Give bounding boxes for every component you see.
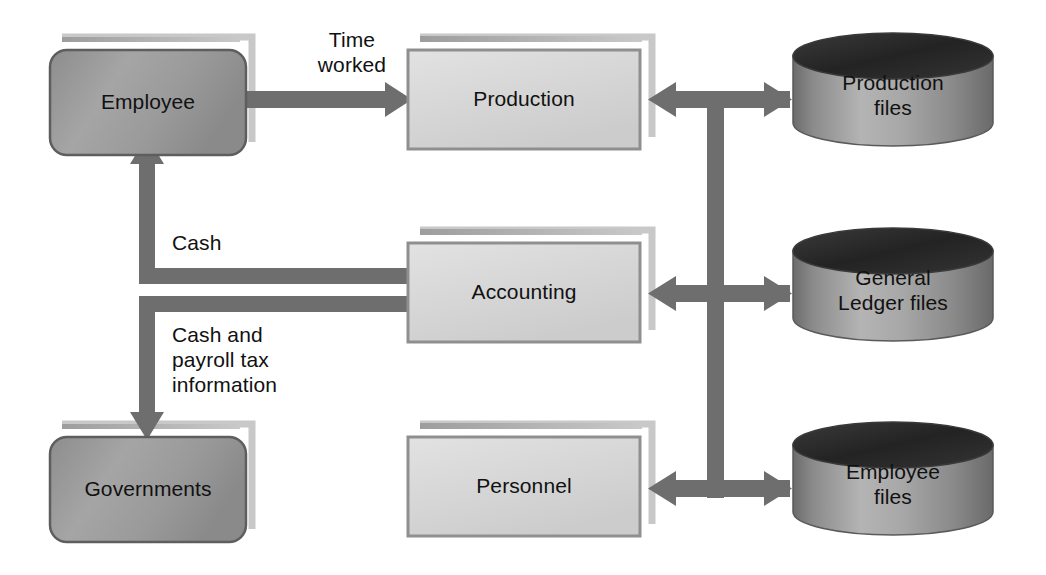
general-ledger-files-cylinder[interactable] — [793, 228, 993, 341]
flow-label-time-worked: Time worked — [292, 27, 412, 77]
payroll-data-flow-diagram: Employee Governments Production Accounti… — [0, 0, 1046, 575]
flow-label-cash: Cash — [172, 230, 221, 255]
personnel-box[interactable] — [408, 437, 640, 536]
employee-files-cylinder[interactable] — [793, 422, 993, 535]
production-files-cylinder[interactable] — [793, 33, 993, 146]
production-box[interactable] — [408, 50, 640, 149]
arrow-cash — [130, 136, 411, 284]
flow-label-cash-and-payroll-tax-information: Cash and payroll tax information — [172, 322, 277, 398]
governments-box[interactable] — [50, 437, 246, 542]
accounting-box[interactable] — [408, 243, 640, 342]
diagram-canvas — [0, 0, 1046, 575]
arrow-time-worked — [246, 82, 412, 117]
employee-box[interactable] — [50, 50, 246, 155]
